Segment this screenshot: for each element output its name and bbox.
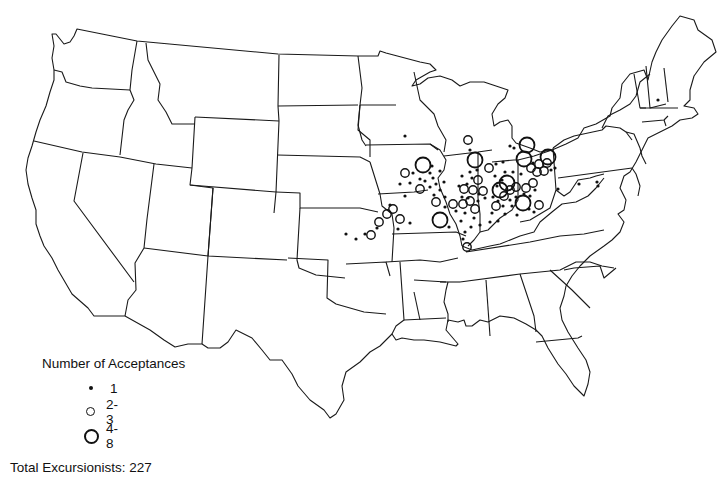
small-dot-marker (411, 171, 414, 174)
legend-label: 4-8 (106, 421, 122, 451)
large-circle-marker (468, 153, 483, 168)
small-dot-marker (403, 134, 406, 137)
small-dot-marker (447, 225, 450, 228)
medium-circle-marker (401, 169, 409, 177)
small-dot-marker (438, 169, 441, 172)
small-dot-marker (495, 184, 498, 187)
medium-circle-marker (460, 185, 468, 193)
small-dot-marker (469, 225, 472, 228)
small-dot-marker (443, 205, 446, 208)
medium-circle-marker (396, 215, 404, 223)
small-dot-marker (519, 172, 522, 175)
small-dot-marker (403, 194, 406, 197)
medium-circle-marker (535, 201, 543, 209)
medium-circle-icon (80, 402, 98, 422)
small-dot-marker (494, 162, 497, 165)
small-dot-marker (354, 237, 357, 240)
small-dot-marker (423, 179, 426, 182)
small-dot-marker (483, 196, 486, 199)
legend-title: Number of Acceptances (42, 356, 185, 371)
medium-circle-marker (432, 198, 440, 206)
medium-circle-marker (416, 185, 424, 193)
medium-circle-marker (471, 205, 479, 213)
small-dot-marker (461, 237, 464, 240)
large-circle-marker (433, 213, 448, 228)
small-dot-marker (463, 230, 466, 233)
small-dot-marker (408, 221, 411, 224)
small-dot-marker (428, 171, 431, 174)
small-dot-marker (549, 168, 552, 171)
small-dot-icon (80, 378, 102, 398)
small-dot-marker (442, 180, 445, 183)
small-dot-marker (496, 219, 499, 222)
small-dot-marker (475, 168, 478, 171)
medium-circle-marker (522, 184, 530, 192)
small-dot-marker (470, 176, 473, 179)
small-dot-marker (490, 211, 493, 214)
small-dot-marker (596, 184, 599, 187)
small-dot-marker (396, 227, 399, 230)
large-circle-marker (416, 158, 431, 173)
small-dot-marker (460, 195, 463, 198)
small-dot-marker (454, 209, 457, 212)
small-dot-marker (577, 182, 580, 185)
legend-label: 1 (110, 381, 118, 396)
small-dot-marker (430, 164, 433, 167)
legend-item-2: 2-3 (80, 402, 122, 422)
small-dot-marker (501, 204, 504, 207)
small-dot-marker (556, 187, 559, 190)
small-dot-marker (488, 220, 491, 223)
small-dot-marker (595, 180, 598, 183)
total-excursionists: Total Excursionists: 227 (10, 460, 152, 475)
medium-circle-marker (485, 164, 493, 172)
medium-circle-marker (449, 200, 457, 208)
small-dot-marker (527, 207, 530, 210)
small-dot-marker (428, 185, 431, 188)
small-dot-marker (508, 144, 511, 147)
small-dot-marker (491, 195, 494, 198)
small-dot-marker (493, 174, 496, 177)
medium-circle-marker (469, 186, 477, 194)
medium-circle-marker (464, 136, 472, 144)
small-dot-marker (515, 213, 518, 216)
small-dot-marker (503, 212, 506, 215)
small-dot-marker (459, 219, 462, 222)
small-dot-marker (508, 198, 511, 201)
small-dot-marker (532, 210, 535, 213)
legend-item-3: 4-8 (80, 426, 122, 446)
small-dot-marker (344, 232, 347, 235)
small-dot-marker (478, 223, 481, 226)
small-dot-marker (388, 203, 391, 206)
medium-circle-marker (367, 231, 375, 239)
medium-circle-marker (466, 197, 474, 205)
small-dot-marker (503, 170, 506, 173)
medium-circle-marker (492, 202, 500, 210)
small-dot-marker (468, 148, 471, 151)
small-dot-marker (533, 188, 536, 191)
small-dot-marker (472, 216, 475, 219)
small-dot-marker (510, 204, 513, 207)
small-dot-marker (553, 166, 556, 169)
medium-circle-marker (527, 164, 535, 172)
large-circle-icon (80, 426, 98, 446)
small-dot-marker (501, 160, 504, 163)
legend-item-1: 1 (80, 378, 118, 398)
small-dot-marker (477, 192, 480, 195)
small-dot-marker (460, 174, 463, 177)
small-dot-marker (432, 193, 435, 196)
small-dot-marker (398, 182, 401, 185)
small-dot-marker (468, 170, 471, 173)
small-dot-marker (431, 176, 434, 179)
medium-circle-marker (375, 218, 383, 226)
small-dot-marker (511, 170, 514, 173)
small-dot-marker (656, 98, 659, 101)
small-dot-marker (476, 199, 479, 202)
small-dot-marker (418, 177, 421, 180)
small-dot-marker (463, 211, 466, 214)
small-dot-marker (375, 226, 378, 229)
small-dot-marker (512, 146, 515, 149)
small-dot-marker (408, 181, 411, 184)
small-dot-marker (443, 195, 446, 198)
small-dot-marker (434, 182, 437, 185)
small-dot-marker (438, 188, 441, 191)
